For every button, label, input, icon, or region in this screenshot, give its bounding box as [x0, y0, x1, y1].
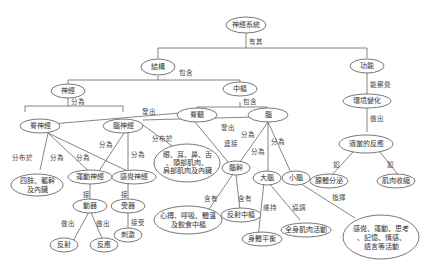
svg-text:感覺神經: 感覺神經 [120, 172, 148, 181]
svg-text:心搏、呼吸、體溫: 心搏、呼吸、體溫 [160, 211, 216, 220]
svg-text:刺激: 刺激 [121, 230, 135, 239]
svg-text:分為: 分為 [50, 153, 64, 162]
svg-text:及飲食中樞: 及飲食中樞 [171, 220, 206, 229]
svg-text:分為: 分為 [251, 147, 265, 156]
node-central: 中樞 [223, 82, 257, 96]
svg-text:維持: 維持 [263, 203, 277, 212]
svg-text:、頭部肌肉、: 、頭部肌肉、 [166, 158, 208, 167]
svg-text:感覺、運動、思考: 感覺、運動、思考 [353, 224, 409, 233]
svg-text:如: 如 [333, 160, 340, 169]
edge-labels: 有其 包含 包含 分為 發出 發出 連接 分為 分為 分為 分布於 分為 分為 … [12, 37, 394, 228]
svg-text:適當的反應: 適當的反應 [349, 139, 384, 148]
node-reflex: 反射 [50, 238, 78, 252]
node-gland: 腺體分泌 [310, 174, 348, 188]
node-muscle: 肌肉收縮 [377, 174, 415, 188]
node-muscle-activity: 全身肌肉活動 [281, 223, 331, 237]
svg-text:分為: 分為 [131, 150, 145, 159]
svg-text:全身肌肉活動: 全身肌肉活動 [285, 225, 327, 234]
node-brain: 腦 [248, 108, 288, 122]
svg-text:接受: 接受 [131, 218, 145, 227]
svg-text:連接: 連接 [224, 139, 238, 148]
svg-text:神經系統: 神經系統 [232, 20, 260, 29]
node-function: 功能 [350, 59, 384, 73]
svg-text:有其: 有其 [249, 37, 263, 46]
svg-text:腦: 腦 [265, 110, 272, 119]
svg-text:四肢、軀幹: 四肢、軀幹 [20, 176, 55, 185]
node-nerves: 神經 [51, 84, 85, 98]
node-face: 眼、耳、鼻、舌 、頭部肌肉、 肩部肌肉及內臟 [154, 144, 220, 182]
svg-text:接: 接 [83, 190, 90, 199]
svg-text:肩部肌肉及內臟: 肩部肌肉及內臟 [163, 166, 212, 175]
svg-text:腦幹: 腦幹 [229, 163, 243, 172]
svg-text:指揮: 指揮 [332, 193, 346, 202]
svg-text:腺體分泌: 腺體分泌 [315, 176, 343, 185]
svg-text:反應: 反應 [97, 240, 111, 249]
svg-text:做出: 做出 [96, 219, 110, 228]
node-structure: 結構 [141, 59, 175, 75]
svg-text:身體平衡: 身體平衡 [248, 234, 276, 243]
svg-text:語言等活動: 語言等活動 [364, 242, 399, 251]
node-limbs: 四肢、軀幹 及內臟 [11, 174, 63, 196]
svg-text:功能: 功能 [360, 61, 374, 70]
node-proper-response: 適當的反應 [339, 135, 393, 153]
svg-text:接: 接 [121, 190, 128, 199]
node-spinal-nerve: 脊神經 [20, 119, 60, 133]
node-effector: 動器 [73, 199, 107, 213]
svg-text:包含: 包含 [243, 97, 257, 106]
svg-text:中樞: 中樞 [233, 84, 247, 93]
svg-text:分布於: 分布於 [12, 153, 33, 162]
svg-text:分布於: 分布於 [152, 134, 173, 143]
svg-text:小腦: 小腦 [289, 173, 303, 182]
svg-text:能察覺: 能察覺 [370, 80, 391, 89]
svg-text:脊神經: 脊神經 [30, 121, 51, 130]
svg-text:做出: 做出 [370, 114, 384, 123]
svg-text:發出: 發出 [221, 123, 235, 132]
svg-text:動器: 動器 [83, 201, 97, 210]
svg-text:發出: 發出 [142, 107, 156, 116]
svg-text:分為: 分為 [76, 153, 90, 162]
svg-text:受器: 受器 [121, 201, 135, 210]
svg-text:分為: 分為 [241, 130, 255, 139]
svg-text:神經: 神經 [61, 86, 75, 95]
svg-text:眼、耳、鼻、舌: 眼、耳、鼻、舌 [163, 150, 212, 159]
svg-text:大腦: 大腦 [260, 173, 274, 182]
svg-text:分為: 分為 [71, 97, 85, 106]
svg-text:協調: 協調 [292, 203, 306, 212]
node-response: 反應 [90, 238, 118, 252]
node-root: 神經系統 [226, 17, 266, 33]
svg-text:、記憶、情感、: 、記憶、情感、 [357, 233, 406, 242]
svg-text:結構: 結構 [151, 62, 165, 71]
svg-text:脊髓: 脊髓 [190, 110, 204, 119]
svg-text:如: 如 [387, 160, 394, 169]
svg-text:包含: 包含 [179, 68, 193, 77]
svg-text:運動神經: 運動神經 [76, 172, 104, 181]
node-balance: 身體平衡 [242, 232, 282, 246]
svg-text:分為: 分為 [99, 140, 113, 149]
svg-text:腦神經: 腦神經 [113, 121, 134, 130]
node-stimulus: 刺激 [114, 228, 142, 242]
node-spinal-cord: 脊髓 [177, 108, 217, 122]
node-motor-nerve: 運動神經 [68, 170, 112, 184]
svg-text:做出: 做出 [61, 219, 75, 228]
svg-text:含有: 含有 [204, 194, 218, 203]
svg-text:反射: 反射 [57, 240, 71, 249]
node-env-change: 環境變化 [343, 94, 391, 108]
svg-text:及內臟: 及內臟 [27, 185, 48, 194]
node-sensory-nerve: 感覺神經 [112, 170, 156, 184]
node-cerebrum: 大腦 [253, 171, 281, 185]
svg-text:反射中樞: 反射中樞 [227, 210, 255, 219]
nervous-system-concept-map: 有其 包含 包含 分為 發出 發出 連接 分為 分為 分為 分布於 分為 分為 … [0, 0, 428, 275]
svg-text:肌肉收縮: 肌肉收縮 [382, 176, 410, 185]
node-senses: 感覺、運動、思考 、記憶、情感、 語言等活動 [343, 215, 419, 259]
svg-text:分為: 分為 [271, 137, 285, 146]
svg-text:含有: 含有 [238, 194, 252, 203]
node-receptor: 受器 [111, 199, 145, 213]
svg-text:環境變化: 環境變化 [353, 96, 381, 105]
node-cranial-nerve: 腦神經 [103, 119, 143, 133]
node-reflex-center: 反射中樞 [221, 208, 261, 222]
node-brainstem: 腦幹 [222, 161, 250, 175]
node-cerebellum: 小腦 [282, 171, 310, 185]
node-heart: 心搏、呼吸、體溫 及飲食中樞 [154, 206, 222, 234]
